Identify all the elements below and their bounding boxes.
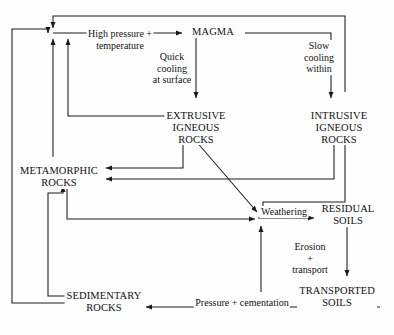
node-intrusive-igneous-rocks[interactable]: INTRUSIVE IGNEOUS ROCKS bbox=[309, 110, 369, 145]
edge-metamorphic-to-weathering bbox=[67, 187, 255, 219]
edge-label-quick-cooling-at-surface: Quick cooling at surface bbox=[151, 51, 193, 86]
node-residual-soils[interactable]: RESIDUAL SOILS bbox=[320, 203, 377, 227]
edge-intrusive-to-metamorphic bbox=[106, 140, 334, 179]
node-extrusive-igneous-rocks[interactable]: EXTRUSIVE IGNEOUS ROCKS bbox=[164, 110, 227, 145]
edge-label-slow-cooling-within: Slow cooling within bbox=[303, 40, 336, 75]
edge-intrusive-to-weathering bbox=[263, 140, 345, 212]
edge-sedimentary-to-metamorphic bbox=[48, 186, 73, 296]
edge-label-pressure-cementation: Pressure + cementation bbox=[194, 297, 290, 309]
edge-extrusive-to-weathering bbox=[195, 140, 257, 212]
node-transported-soils[interactable]: TRANSPORTED SOILS bbox=[297, 285, 377, 309]
edge-label-high-pressure-temperature: High pressure + temperature bbox=[87, 28, 154, 51]
edge-label-weathering: Weathering bbox=[260, 206, 309, 218]
rock-cycle-diagram: MAGMA EXTRUSIVE IGNEOUS ROCKS INTRUSIVE … bbox=[0, 0, 394, 335]
node-magma[interactable]: MAGMA bbox=[190, 26, 236, 38]
edge-label-erosion-transport: Erosion + transport bbox=[291, 241, 330, 276]
node-metamorphic-rocks[interactable]: METAMORPHIC ROCKS bbox=[18, 165, 100, 189]
node-sedimentary-rocks[interactable]: SEDIMENTARY ROCKS bbox=[65, 290, 144, 314]
